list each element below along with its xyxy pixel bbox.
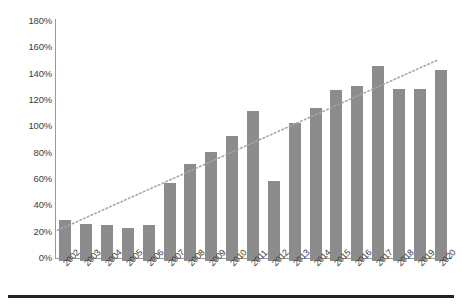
bar-slot [368,18,389,258]
bar-slot [55,18,76,258]
bar [247,111,259,261]
bar-slot [284,18,305,258]
bar-slot [138,18,159,258]
bar [372,66,384,261]
bar [310,108,322,261]
bar-slot [243,18,264,258]
y-tick-label: 180% [6,16,52,26]
y-axis: 180%160%140%120%100%80%60%40%20%0% [0,0,52,306]
bar [289,123,301,261]
y-tick-label: 120% [6,95,52,105]
bar [268,181,280,261]
bar-slot [97,18,118,258]
y-tick-label: 100% [6,121,52,131]
y-tick-label: 140% [6,69,52,79]
bar [226,136,238,261]
bar-slot [263,18,284,258]
bar-slot [118,18,139,258]
bar [435,70,447,261]
bar [414,89,426,261]
bar-slot [409,18,430,258]
bar [205,152,217,261]
bar-slot [347,18,368,258]
bar-slot [430,18,451,258]
y-tick-label: 0% [6,253,52,263]
y-tick-label: 20% [6,227,52,237]
bar-chart: 180%160%140%120%100%80%60%40%20%0% 20022… [0,0,462,306]
x-axis: 2002200320042005200620072008200920102011… [55,259,452,305]
bar [351,86,363,261]
bars-layer [55,18,451,258]
bar-slot [159,18,180,258]
bar-slot [222,18,243,258]
bar-slot [326,18,347,258]
bar [164,183,176,261]
bar [184,164,196,261]
y-tick-label: 80% [6,148,52,158]
bar-slot [180,18,201,258]
bottom-divider [8,295,454,298]
y-tick-label: 40% [6,200,52,210]
bar [393,89,405,261]
y-tick-label: 60% [6,174,52,184]
bar-slot [388,18,409,258]
y-tick-label: 160% [6,42,52,52]
bar-slot [305,18,326,258]
bar-slot [76,18,97,258]
bar [330,90,342,261]
plot-area [55,18,451,261]
bar-slot [201,18,222,258]
